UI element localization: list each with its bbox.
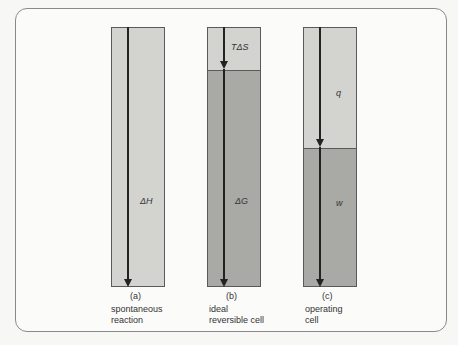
bar-ideal-reversible-cell [207,27,261,287]
label-b-line1: ideal [209,304,228,315]
bar-spontaneous-reaction [111,27,165,287]
symbol-w: w [336,198,343,208]
arrowhead-icon [316,279,324,287]
caption-c: (c) [322,291,333,301]
caption-a: (a) [130,291,141,301]
label-b-line2: reversible cell [209,315,264,326]
arrow-q [319,27,321,139]
arrowhead-icon [124,279,132,287]
arrow-delta-h [127,27,129,279]
symbol-delta-h: ΔH [140,196,153,206]
symbol-delta-g: ΔG [235,196,248,206]
arrowhead-icon [220,279,228,287]
arrow-delta-g [223,69,225,279]
symbol-q: q [336,88,341,98]
arrowhead-icon [316,139,324,147]
label-a-line1: spontaneous [111,304,163,315]
segment-q [304,28,356,149]
arrow-t-delta-s [223,27,225,61]
arrowhead-icon [220,61,228,69]
caption-b: (b) [226,291,237,301]
symbol-t-delta-s: TΔS [231,42,249,52]
label-c-line2: cell [305,315,319,326]
arrow-w [319,147,321,279]
bar-operating-cell [303,27,357,287]
label-a-line2: reaction [111,315,143,326]
label-c-line1: operating [305,304,343,315]
